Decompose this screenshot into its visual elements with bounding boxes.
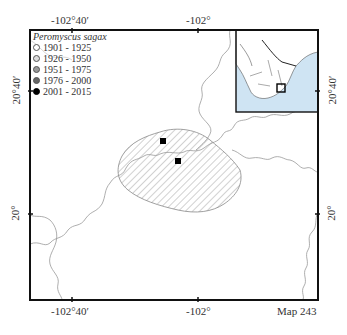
record-marker xyxy=(175,158,181,164)
legend-item: 1951 - 1975 xyxy=(33,64,107,75)
legend-title: Peromyscus sagax xyxy=(33,31,107,42)
legend-dot-icon xyxy=(33,44,40,51)
left-axis-label-1: 20°40′ xyxy=(10,70,22,110)
inset-map xyxy=(236,30,318,112)
legend: Peromyscus sagax 1901 - 1925 1926 - 1950… xyxy=(33,31,107,97)
legend-item: 1901 - 1925 xyxy=(33,42,107,53)
left-axis-label-2: 20° xyxy=(9,198,21,228)
legend-item: 2001 - 2015 xyxy=(33,86,107,97)
legend-item: 1976 - 2000 xyxy=(33,75,107,86)
map-number-label: Map 243 xyxy=(277,305,316,317)
state-border xyxy=(232,150,318,172)
bottom-axis-label-1: -102°40′ xyxy=(51,305,89,317)
right-axis-label-2: 20° xyxy=(325,198,337,228)
legend-dot-icon xyxy=(33,77,40,84)
state-border xyxy=(302,212,318,300)
top-axis-label-2: -102° xyxy=(186,14,211,26)
legend-item: 1926 - 1950 xyxy=(33,53,107,64)
legend-dot-icon xyxy=(33,66,40,73)
legend-dot-icon xyxy=(33,88,40,95)
top-axis-label-1: -102°40′ xyxy=(51,14,89,26)
bottom-axis-label-2: -102° xyxy=(186,305,211,317)
right-axis-label-1: 20°40′ xyxy=(326,70,338,110)
record-marker xyxy=(160,138,166,144)
state-border xyxy=(30,215,62,300)
legend-dot-icon xyxy=(33,55,40,62)
distribution-range xyxy=(118,129,241,212)
